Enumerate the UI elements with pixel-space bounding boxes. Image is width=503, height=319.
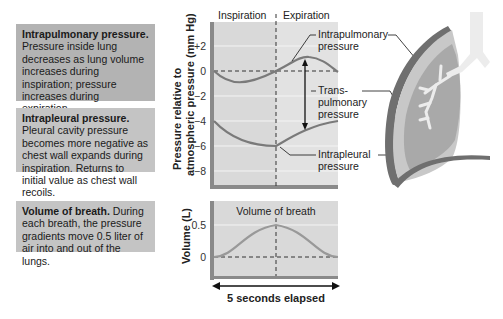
label-intrapleural-1: Intrapleural <box>318 148 371 160</box>
label-intrapulmonary-1: Intrapulmonary <box>318 28 389 40</box>
diagram-canvas: +2 0 −2 −4 −6 −8 Inspiration Expiration … <box>0 0 503 319</box>
label-intrapulmonary-2: pressure <box>318 40 359 52</box>
label-intrapleural-2: pressure <box>318 160 359 172</box>
pressure-ylabel-line1: Pressure relative to <box>171 68 183 170</box>
pressure-chart: +2 0 −2 −4 −6 −8 Inspiration Expiration … <box>171 9 338 189</box>
phase-inspiration-label: Inspiration <box>218 9 267 21</box>
phase-expiration-label: Expiration <box>283 9 330 21</box>
label-trans-1: Trans- <box>318 84 348 96</box>
pressure-ylabel-line2: atmospheric pressure (mm Hg) <box>184 13 196 176</box>
volume-title: Volume of breath <box>236 205 316 217</box>
volume-chart: Volume of breath 0.5 0 Volume (L) 5 seco… <box>180 201 340 304</box>
label-trans-2: pulmonary <box>318 96 368 108</box>
tick-0: 0 <box>200 65 206 77</box>
label-trans-3: pressure <box>318 108 359 120</box>
lung-illustration <box>385 12 490 188</box>
tick-0-vol: 0 <box>200 251 206 263</box>
elapsed-label: 5 seconds elapsed <box>227 292 325 304</box>
volume-ylabel: Volume (L) <box>180 208 192 264</box>
tick-0-5: 0.5 <box>191 219 206 231</box>
